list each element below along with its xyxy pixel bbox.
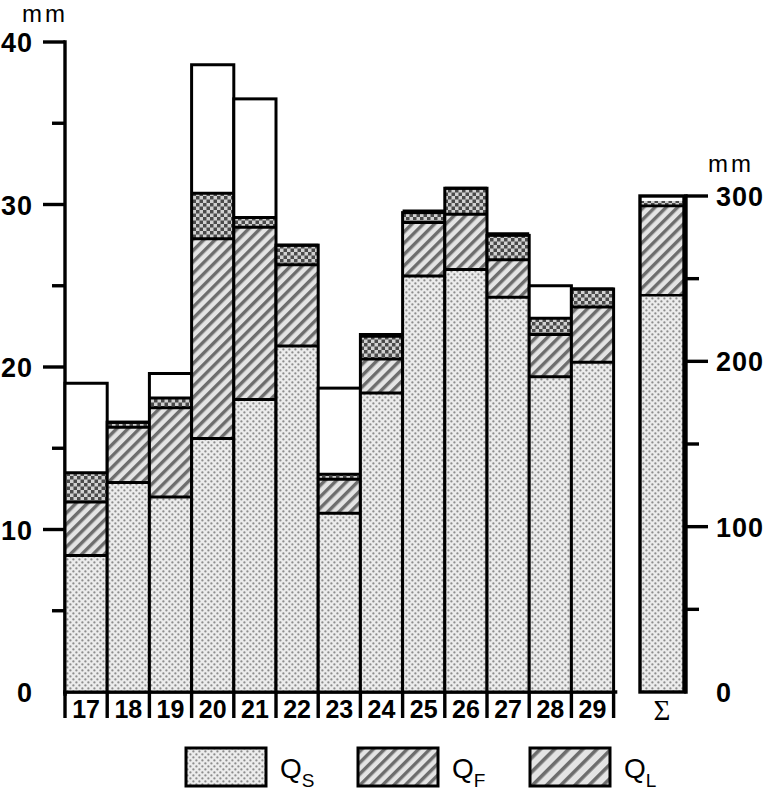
bar-17-segment-QF[interactable] (65, 502, 107, 556)
bar-group-20[interactable] (192, 65, 234, 692)
bar-19-segment-QF[interactable] (149, 408, 191, 497)
bar-25-segment-QS[interactable] (403, 276, 445, 692)
bar-24-segment-QS[interactable] (360, 393, 402, 692)
x-label-21: 21 (241, 695, 269, 723)
bar-20-total-remainder (192, 65, 234, 193)
bar-23-segment-QS[interactable] (318, 513, 360, 692)
x-label-20: 20 (199, 695, 227, 723)
bar-group-22[interactable] (276, 245, 318, 692)
bar-21-total-remainder (234, 99, 276, 218)
bar-group-17[interactable] (65, 383, 107, 692)
bar-21-segment-QF[interactable] (234, 227, 276, 399)
x-label-18: 18 (114, 695, 142, 723)
x-label-24: 24 (368, 695, 396, 723)
bar-26-segment-QS[interactable] (445, 270, 487, 693)
bar-20-segment-QS[interactable] (192, 439, 234, 693)
bar-25-segment-QF[interactable] (403, 222, 445, 276)
bar-group-25[interactable] (403, 211, 445, 692)
x-label-19: 19 (157, 695, 185, 723)
bar-26-segment-QF[interactable] (445, 214, 487, 269)
bar-28-segment-QS[interactable] (529, 377, 571, 692)
sum-bar-segment-QF[interactable] (640, 206, 684, 295)
legend-swatch-QL (530, 748, 610, 786)
bar-27-segment-QL[interactable] (487, 234, 529, 260)
bar-group-21[interactable] (234, 99, 276, 692)
y-tick-label-10: 10 (1, 516, 33, 546)
bar-28-segment-QF[interactable] (529, 335, 571, 377)
sum-bar-group[interactable] (640, 196, 684, 692)
sum-bar-segment-QS[interactable] (640, 295, 684, 692)
y-axis-unit-left: mm (22, 0, 68, 27)
y-axis-unit-right: mm (708, 150, 754, 177)
x-label-17: 17 (72, 695, 100, 723)
bar-28-total-remainder (529, 286, 571, 319)
x-label-28: 28 (536, 695, 564, 723)
bar-29-segment-QL[interactable] (571, 289, 613, 307)
bar-27-segment-QS[interactable] (487, 297, 529, 692)
bar-28-segment-QL[interactable] (529, 318, 571, 334)
bar-23-total-remainder (318, 388, 360, 474)
bar-23-segment-QF[interactable] (318, 479, 360, 513)
sum-bar-label: Σ (654, 694, 671, 726)
bar-29-segment-QS[interactable] (571, 362, 613, 692)
bar-group-24[interactable] (360, 335, 402, 693)
y2-tick-label-100: 100 (716, 513, 764, 543)
bar-24-segment-QF[interactable] (360, 359, 402, 393)
bar-18-segment-QS[interactable] (107, 482, 149, 692)
bar-19-segment-QS[interactable] (149, 497, 191, 692)
bar-group-27[interactable] (487, 234, 529, 692)
bar-22-segment-QF[interactable] (276, 265, 318, 346)
bar-24-segment-QL[interactable] (360, 336, 402, 359)
bar-21-segment-QS[interactable] (234, 400, 276, 693)
x-label-26: 26 (452, 695, 480, 723)
bar-17-segment-QL[interactable] (65, 473, 107, 502)
chart-canvas: 010203040mm17181920212223242526272829Σ01… (0, 0, 767, 805)
y2-tick-label-0: 0 (716, 678, 732, 708)
y-tick-label-0: 0 (17, 678, 33, 708)
bar-27-segment-QF[interactable] (487, 260, 529, 297)
bar-29-segment-QF[interactable] (571, 307, 613, 362)
bar-17-total-remainder (65, 383, 107, 472)
y-tick-label-20: 20 (1, 353, 33, 383)
bar-22-segment-QS[interactable] (276, 346, 318, 692)
y2-tick-label-300: 300 (716, 182, 764, 212)
bar-group-19[interactable] (149, 374, 191, 693)
x-label-27: 27 (494, 695, 522, 723)
y-tick-label-30: 30 (1, 191, 33, 221)
bar-20-segment-QF[interactable] (192, 239, 234, 439)
bar-17-segment-QS[interactable] (65, 556, 107, 693)
bar-19-total-remainder (149, 374, 191, 398)
x-label-22: 22 (283, 695, 311, 723)
legend-swatch-QF (358, 748, 438, 786)
legend-label-QS: QS (280, 753, 314, 791)
legend-label-QL: QL (624, 753, 656, 791)
bar-group-23[interactable] (318, 388, 360, 692)
bar-group-26[interactable] (445, 188, 487, 692)
bar-group-29[interactable] (571, 289, 613, 692)
bar-22-segment-QL[interactable] (276, 245, 318, 265)
legend-label-QF: QF (452, 753, 485, 791)
bar-26-segment-QL[interactable] (445, 188, 487, 214)
bar-20-segment-QL[interactable] (192, 193, 234, 239)
x-label-23: 23 (325, 695, 353, 723)
y2-tick-label-200: 200 (716, 347, 764, 377)
y-tick-label-40: 40 (1, 28, 33, 58)
bar-18-segment-QF[interactable] (107, 427, 149, 482)
x-label-25: 25 (410, 695, 438, 723)
bar-group-18[interactable] (107, 422, 149, 692)
bar-group-28[interactable] (529, 286, 571, 692)
legend-swatch-QS (186, 748, 266, 786)
stacked-bar-chart: 010203040mm17181920212223242526272829Σ01… (0, 0, 767, 805)
x-label-29: 29 (579, 695, 607, 723)
